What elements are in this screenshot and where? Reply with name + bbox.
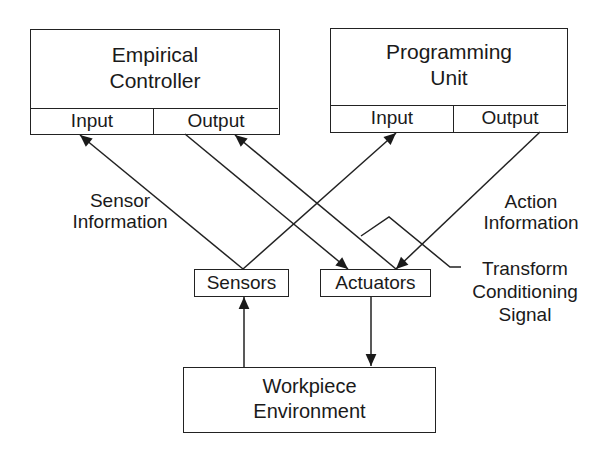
empirical-controller-input-port: Input: [31, 108, 154, 134]
title-line: Empirical: [31, 42, 279, 68]
label-line: Conditioning: [454, 280, 596, 303]
input-label: Input: [71, 110, 113, 131]
label-line: Information: [466, 212, 596, 233]
workpiece-environment-title: Workpiece Environment: [184, 374, 435, 424]
title-line: Workpiece: [184, 374, 435, 399]
transform-signal-leader: [361, 217, 461, 267]
programming-unit-output-port: Output: [454, 105, 566, 132]
workpiece-environment-box: Workpiece Environment: [183, 367, 436, 433]
title-line: Controller: [31, 68, 279, 94]
label-line: Action: [466, 191, 596, 212]
sensors-box: Sensors: [194, 269, 289, 297]
action-information-label: Action Information: [466, 191, 596, 233]
empirical-controller-output-port: Output: [154, 108, 278, 134]
sensors-label: Sensors: [195, 270, 288, 296]
output-label: Output: [187, 110, 244, 131]
label-line: Signal: [454, 303, 596, 326]
programming-unit-input-port: Input: [331, 105, 454, 132]
actuators-label: Actuators: [321, 270, 430, 296]
label-line: Transform: [454, 257, 596, 280]
actuators-box: Actuators: [320, 269, 431, 297]
programming-unit-title: Programming Unit: [331, 39, 567, 91]
empirical-controller-box: Empirical Controller Input Output: [30, 29, 280, 135]
title-line: Unit: [331, 65, 567, 91]
title-line: Programming: [331, 39, 567, 65]
label-line: Information: [50, 211, 190, 232]
sensor-information-label: Sensor Information: [50, 190, 190, 232]
label-line: Sensor: [50, 190, 190, 211]
input-label: Input: [371, 107, 413, 128]
transform-conditioning-signal-label: Transform Conditioning Signal: [454, 257, 596, 326]
output-label: Output: [481, 107, 538, 128]
empirical-controller-title: Empirical Controller: [31, 42, 279, 94]
programming-unit-box: Programming Unit Input Output: [330, 28, 568, 133]
title-line: Environment: [184, 399, 435, 424]
